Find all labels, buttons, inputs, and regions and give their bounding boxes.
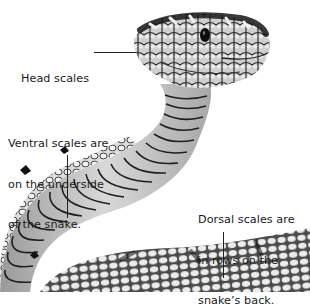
ventral-scales-label-line-2: on the underside bbox=[8, 178, 108, 192]
dorsal-scales-label-line-3: snake’s back. bbox=[198, 294, 295, 308]
ventral-scales-label: Ventral scales are on the underside of t… bbox=[8, 110, 108, 259]
head-scales-leader-line bbox=[94, 52, 136, 53]
dorsal-scales-label: Dorsal scales are in rows on the snake’s… bbox=[198, 186, 295, 308]
ventral-scales-label-line-1: Ventral scales are bbox=[8, 137, 108, 151]
dorsal-scales-label-line-2: in rows on the bbox=[198, 254, 295, 268]
dorsal-scales-leader-line bbox=[223, 232, 224, 278]
head-scales-label-line-1: Head scales bbox=[21, 72, 89, 86]
ventral-scales-label-line-3: of the snake. bbox=[8, 218, 108, 232]
eye bbox=[200, 28, 210, 42]
dorsal-scales-label-line-1: Dorsal scales are bbox=[198, 213, 295, 227]
head-scales-label: Head scales bbox=[21, 45, 89, 113]
ventral-scales-leader-line bbox=[67, 155, 68, 218]
